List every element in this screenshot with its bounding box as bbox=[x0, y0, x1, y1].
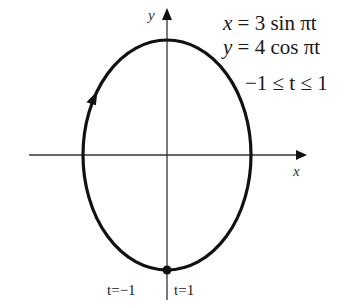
y-eq-var: y bbox=[223, 35, 232, 59]
x-eq-rhs: = 3 sin πt bbox=[238, 11, 317, 35]
x-eq-var: x bbox=[223, 11, 232, 35]
parametric-ellipse-diagram: x = 3 sin πt y = 4 cos πt −1 ≤ t ≤ 1 y x… bbox=[0, 0, 354, 308]
x-axis-label: x bbox=[293, 164, 300, 179]
parameter-range: −1 ≤ t ≤ 1 bbox=[245, 73, 328, 94]
start-end-point bbox=[163, 266, 172, 275]
y-axis-label: y bbox=[148, 8, 155, 23]
x-axis-arrow-icon bbox=[296, 150, 307, 160]
y-axis-arrow-icon bbox=[162, 8, 172, 20]
end-label: t=1 bbox=[174, 283, 194, 298]
x-equation: x = 3 sin πt bbox=[223, 13, 317, 34]
y-equation: y = 4 cos πt bbox=[223, 37, 320, 58]
y-eq-rhs: = 4 cos πt bbox=[238, 35, 321, 59]
start-label: t=−1 bbox=[107, 283, 136, 298]
